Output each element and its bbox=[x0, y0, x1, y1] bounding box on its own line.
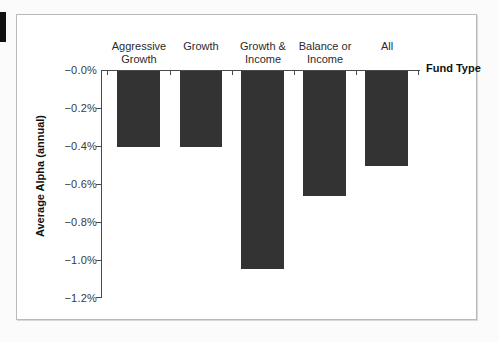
y-tick-mark-1 bbox=[96, 108, 101, 109]
x-category-label-all: All bbox=[348, 40, 426, 53]
y-tick-text-5: −1.0% bbox=[49, 254, 97, 266]
y-tick-label-6: −1.2% bbox=[45, 292, 97, 304]
y-tick-mark-5 bbox=[96, 260, 101, 261]
y-tick-text-4: −0.8% bbox=[49, 216, 97, 228]
y-tick-text-1: −0.2% bbox=[49, 102, 97, 114]
x-tick-mark-0 bbox=[107, 70, 108, 75]
y-tick-label-3: −0.6% bbox=[45, 178, 97, 190]
x-tick-mark-2 bbox=[232, 70, 233, 75]
y-axis-title: Average Alpha (annual) bbox=[34, 96, 46, 256]
y-tick-label-4: −0.8% bbox=[45, 216, 97, 228]
y-axis-line bbox=[101, 70, 102, 298]
bar-growth[interactable] bbox=[180, 71, 222, 147]
y-tick-label-1: −0.2% bbox=[45, 102, 97, 114]
bar-aggressive-growth[interactable] bbox=[117, 71, 160, 147]
y-tick-text-6: −1.2% bbox=[49, 292, 97, 304]
x-tick-mark-5 bbox=[418, 70, 419, 75]
y-tick-mark-4 bbox=[96, 222, 101, 223]
y-tick-label-0: −0.0% bbox=[45, 64, 97, 76]
x-tick-mark-3 bbox=[294, 70, 295, 75]
bar-all[interactable] bbox=[365, 71, 408, 166]
figure-root: −0.0% −0.2% −0.4% −0.6% −0.8% −1.0% −1.2… bbox=[0, 0, 499, 342]
x-tick-mark-1 bbox=[170, 70, 171, 75]
y-tick-text-2: −0.4% bbox=[49, 140, 97, 152]
y-tick-text-3: −0.6% bbox=[49, 178, 97, 190]
bar-chart-plot-area: −0.0% −0.2% −0.4% −0.6% −0.8% −1.0% −1.2… bbox=[0, 0, 499, 342]
y-tick-mark-2 bbox=[96, 146, 101, 147]
y-tick-label-5: −1.0% bbox=[45, 254, 97, 266]
x-axis-title: Fund Type bbox=[426, 62, 482, 75]
x-tick-mark-4 bbox=[356, 70, 357, 75]
y-tick-mark-3 bbox=[96, 184, 101, 185]
y-tick-mark-6 bbox=[96, 297, 101, 298]
bar-balance-or-income[interactable] bbox=[303, 71, 346, 196]
y-tick-text-0: −0.0% bbox=[49, 64, 97, 76]
y-tick-label-2: −0.4% bbox=[45, 140, 97, 152]
bar-growth-and-income[interactable] bbox=[241, 71, 284, 269]
